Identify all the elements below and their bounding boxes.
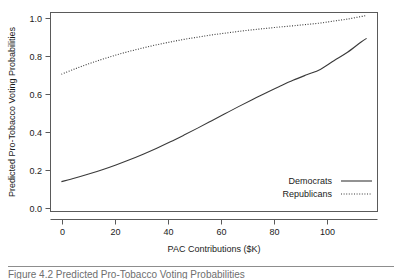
y-tick-label-0-4: 0.4 — [29, 128, 42, 138]
x-axis-title: PAC Contributions ($K) — [168, 244, 261, 254]
y-tick-label-0-2: 0.2 — [29, 166, 42, 176]
predicted-probabilities-chart: 1.0 0.8 0.6 0.4 0.2 0.0 0 20 40 60 80 10… — [0, 0, 402, 279]
y-axis-title: Predicted Pro-Tobacco Voting Probabiliti… — [7, 26, 17, 197]
x-tick-label-40: 40 — [163, 227, 173, 237]
legend-label-republicans: Republicans — [282, 189, 332, 199]
x-tick-label-20: 20 — [110, 227, 120, 237]
y-tick-label-0-8: 0.8 — [29, 52, 42, 62]
x-tick-label-80: 80 — [269, 227, 279, 237]
x-tick-label-0: 0 — [60, 227, 65, 237]
y-axis: 1.0 0.8 0.6 0.4 0.2 0.0 — [29, 13, 50, 214]
figure-caption: Figure 4.2 Predicted Pro-Tobacco Voting … — [8, 269, 394, 279]
y-tick-label-0-6: 0.6 — [29, 90, 42, 100]
democrats-curve — [61, 38, 366, 181]
y-tick-label-1-0: 1.0 — [29, 14, 42, 24]
x-axis: 0 20 40 60 80 100 — [51, 220, 378, 238]
chart-legend: Democrats Republicans — [282, 176, 372, 199]
republicans-curve — [61, 15, 366, 74]
legend-label-democrats: Democrats — [288, 176, 332, 186]
figure-container: 1.0 0.8 0.6 0.4 0.2 0.0 0 20 40 60 80 10… — [0, 0, 402, 279]
caption-divider — [8, 266, 394, 267]
x-tick-label-100: 100 — [320, 227, 335, 237]
y-tick-label-0-0: 0.0 — [29, 204, 42, 214]
x-tick-label-60: 60 — [216, 227, 226, 237]
